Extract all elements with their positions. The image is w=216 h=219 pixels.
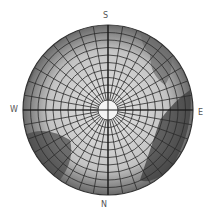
label-north: N [101,201,107,209]
label-east: E [198,109,203,117]
label-south: S [103,12,108,20]
polar-globe-map [0,0,216,219]
label-west: W [10,106,18,114]
globe [23,25,193,195]
